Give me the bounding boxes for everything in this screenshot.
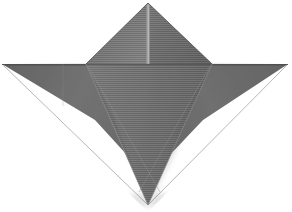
origami-photo-stage: Gray textured paper folded into a symmet… — [0, 0, 292, 212]
origami-model-photo — [0, 0, 292, 212]
